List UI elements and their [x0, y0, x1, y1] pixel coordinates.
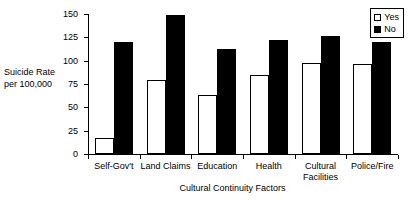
- bar-yes: [147, 80, 166, 154]
- bar-no: [269, 40, 288, 154]
- plot-area: 0255075100125150: [88, 14, 398, 155]
- y-axis-tick-label: 125: [52, 33, 78, 42]
- x-axis-category-label: Police/Fire: [351, 161, 394, 172]
- x-axis-tick: [295, 155, 296, 159]
- legend-swatch-filled-square-icon: [374, 26, 381, 33]
- y-axis-tick: 50: [84, 107, 88, 108]
- bar-group: [95, 14, 133, 154]
- x-axis-tick: [346, 155, 347, 159]
- legend-item-yes: Yes: [374, 11, 399, 23]
- x-axis-tick: [88, 155, 89, 159]
- y-axis-tick-label: 100: [52, 56, 78, 65]
- x-axis-category-label-line: Education: [197, 161, 237, 172]
- y-axis-line: [88, 14, 89, 155]
- x-axis-category-label: CulturalFacilities: [303, 161, 338, 183]
- x-axis-category-label: Land Claims: [140, 161, 190, 172]
- x-axis-category-label-line: Self-Gov't: [94, 161, 133, 172]
- x-axis-category-label-line: Police/Fire: [351, 161, 394, 172]
- legend-label-yes: Yes: [384, 13, 399, 22]
- x-axis-category-label: Education: [197, 161, 237, 172]
- y-axis-tick-label: 25: [52, 126, 78, 135]
- y-axis-tick-label: 150: [52, 10, 78, 19]
- x-axis-tick: [191, 155, 192, 159]
- x-axis-category-label: Self-Gov't: [94, 161, 133, 172]
- legend-item-no: No: [374, 23, 399, 35]
- y-axis-tick: 125: [84, 37, 88, 38]
- x-axis-category-label-line: Cultural: [303, 161, 338, 172]
- x-axis-category-label-line: Health: [256, 161, 282, 172]
- bar-no: [166, 15, 185, 154]
- bar-yes: [250, 75, 269, 154]
- bar-yes: [302, 63, 321, 154]
- y-axis-tick: 150: [84, 14, 88, 15]
- y-axis-tick-label: 0: [52, 150, 78, 159]
- y-axis-tick: 25: [84, 131, 88, 132]
- x-axis-tick: [140, 155, 141, 159]
- x-axis-title: Cultural Continuity Factors: [0, 183, 415, 194]
- x-axis-tick: [243, 155, 244, 159]
- bar-group: [302, 14, 340, 154]
- bar-group: [198, 14, 236, 154]
- x-axis-category-label-line: Facilities: [303, 172, 338, 183]
- legend: Yes No: [370, 8, 404, 38]
- x-axis-tick: [398, 155, 399, 159]
- bar-yes: [353, 64, 372, 154]
- bar-no: [217, 49, 236, 154]
- bar-yes: [95, 138, 114, 154]
- legend-swatch-hollow-square-icon: [374, 14, 381, 21]
- x-axis-category-label: Health: [256, 161, 282, 172]
- y-axis-tick-label: 50: [52, 103, 78, 112]
- bar-chart: Suicide Rate per 100,000 025507510012515…: [0, 0, 415, 205]
- y-axis-tick-label: 75: [52, 80, 78, 89]
- bar-no: [372, 42, 391, 154]
- x-axis-category-label-line: Land Claims: [140, 161, 190, 172]
- bar-group: [250, 14, 288, 154]
- y-axis-title-line-1: Suicide Rate: [4, 66, 70, 78]
- y-axis-tick: 75: [84, 84, 88, 85]
- y-axis-tick: 100: [84, 61, 88, 62]
- bar-no: [114, 42, 133, 154]
- bar-group: [147, 14, 185, 154]
- bar-yes: [198, 95, 217, 154]
- legend-label-no: No: [384, 25, 396, 34]
- bar-no: [321, 36, 340, 154]
